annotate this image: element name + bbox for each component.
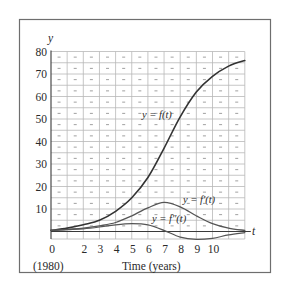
x-tick-labels: 02345678910	[49, 243, 219, 255]
x-tick-label: 3	[98, 243, 104, 255]
grid	[51, 52, 245, 240]
x-tick-label: 8	[178, 243, 184, 255]
x-tick-label: 10	[208, 243, 220, 255]
x-tick-label: 4	[114, 243, 120, 255]
y-tick-label: 50	[36, 113, 48, 125]
x-tick-label: 0	[49, 243, 55, 255]
axes	[51, 51, 251, 240]
curve-label-f-prime: y = f′(t)	[182, 194, 216, 206]
x-tick-label: 2	[81, 243, 87, 255]
y-tick-label: 70	[36, 68, 48, 80]
y-tick-label: 30	[36, 158, 48, 170]
chart: 1020304050607080 02345678910 y t (1980) …	[0, 0, 284, 286]
x-tick-label: 7	[162, 243, 168, 255]
x-tick-label: 6	[146, 243, 152, 255]
curve-label-f: y = f(t)	[141, 109, 172, 121]
y-tick-label: 10	[36, 203, 48, 215]
y-axis-label: y	[47, 32, 54, 45]
y-tick-label: 20	[36, 181, 48, 193]
x-tick-label: 9	[194, 243, 200, 255]
y-tick-label: 80	[36, 46, 48, 58]
y-tick-labels: 1020304050607080	[36, 46, 48, 216]
x-tick-label: 5	[130, 243, 136, 255]
y-tick-label: 60	[36, 91, 48, 103]
x-origin-year-label: (1980)	[33, 260, 64, 273]
t-axis-label: t	[252, 225, 256, 237]
curve-label-f-double-prime: y = f″(t)	[151, 213, 187, 225]
y-tick-label: 40	[36, 136, 48, 148]
x-axis-title: Time (years)	[122, 260, 181, 273]
